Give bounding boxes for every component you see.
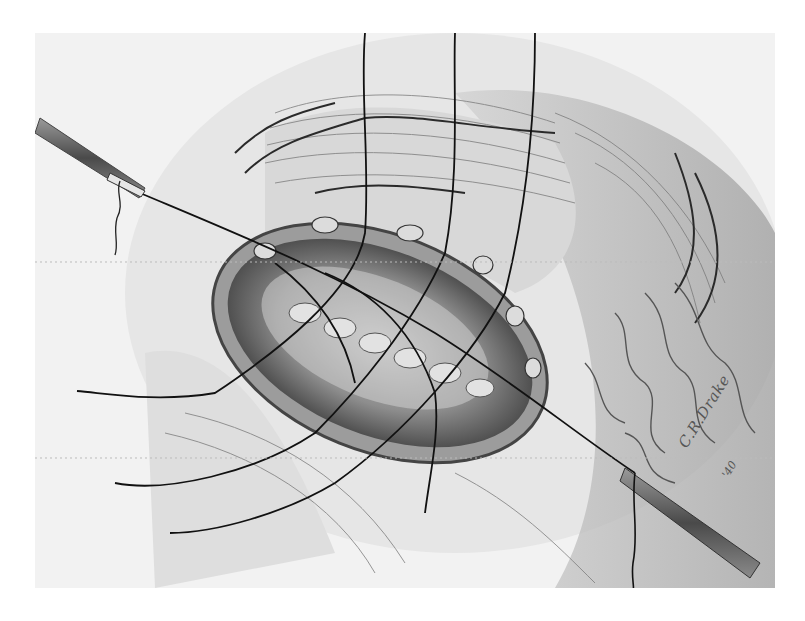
surgical-illustration: C.R.Drake '40 bbox=[35, 33, 775, 588]
illustration-canvas bbox=[35, 33, 775, 588]
needle-holder-left bbox=[35, 118, 145, 255]
